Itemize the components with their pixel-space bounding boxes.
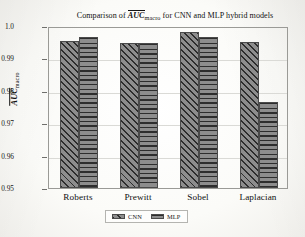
legend-item-mlp: MLP [151,213,181,220]
bar-mlp-prewitt [139,43,158,188]
bar-cnn-roberts [60,41,79,188]
x-tick-label-laplacian: Laplacian [218,192,298,202]
bar-cnn-laplacian [240,42,259,188]
chart-title: Comparison of AUCmacro for CNN and MLP h… [52,10,298,23]
y-tick-label: 0.95 [0,185,14,192]
legend-item-cnn: CNN [112,213,142,220]
ylabel-subscript: macro [13,72,20,88]
y-tick-label: 0.96 [0,153,14,160]
y-tick-label: 0.98 [0,88,14,95]
bar-mlp-laplacian [259,102,278,188]
y-tick-label: 0.99 [0,55,14,62]
legend-label-cnn: CNN [128,213,142,220]
bar-mlp-sobel [199,37,218,188]
figure: Comparison of AUCmacro for CNN and MLP h… [0,0,305,237]
plot-area [48,27,288,189]
legend-swatch-cnn [112,214,125,220]
bar-mlp-roberts [79,37,98,188]
legend-swatch-mlp [151,214,164,220]
y-tick-mark [42,27,47,28]
y-tick-mark [42,124,47,125]
legend-label-mlp: MLP [167,213,181,220]
bar-cnn-sobel [180,32,199,188]
y-tick-mark [42,59,47,60]
bar-cnn-prewitt [120,43,139,188]
y-tick-label: 0.97 [0,120,14,127]
chart-legend: CNN MLP [105,210,188,223]
title-trail: for CNN and MLP hybrid models [161,11,274,20]
y-tick-mark [42,157,47,158]
y-tick-mark [42,92,47,93]
title-lead: Comparison of [77,11,128,20]
y-tick-label: 1.0 [0,23,14,30]
y-tick-mark [42,189,47,190]
title-subscript: macro [145,14,161,21]
title-auc-overline: AUC [128,10,145,20]
